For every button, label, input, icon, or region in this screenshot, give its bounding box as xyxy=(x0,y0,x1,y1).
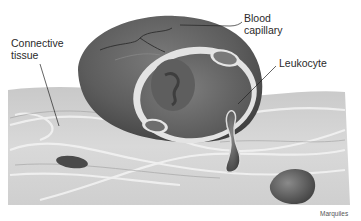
blood-capillary-label: Blood capillary xyxy=(244,12,283,36)
diapedesis-illustration xyxy=(0,0,361,221)
leukocyte-label: Leukocyte xyxy=(279,57,327,69)
illustrator-credit: Marquiles xyxy=(320,210,348,217)
connective-tissue-label: Connective tissue xyxy=(11,37,64,61)
